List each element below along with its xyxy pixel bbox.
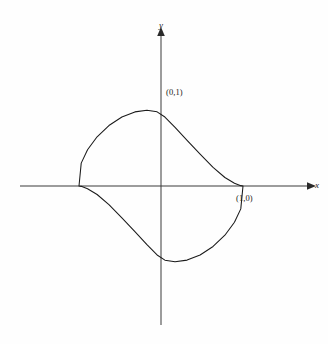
- point-label-one-zero: (1,0): [236, 194, 253, 203]
- point-label-zero-one: (0,1): [166, 88, 183, 97]
- astroid-figure: y x (0,1) (1,0): [0, 0, 328, 344]
- x-axis-label: x: [315, 181, 319, 190]
- plot-canvas: [0, 0, 328, 344]
- y-axis-label: y: [159, 21, 163, 30]
